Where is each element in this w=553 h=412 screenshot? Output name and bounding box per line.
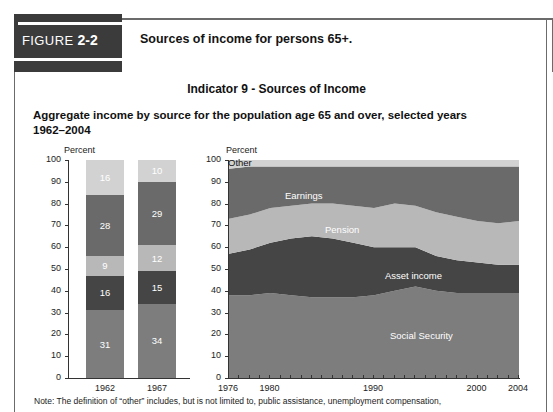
area-band-label: Social Security [390,330,453,341]
area-x-tick [301,375,302,378]
bar-y-tick-label: 20 [41,328,61,338]
area-chart-ylabel: Percent [226,145,257,155]
bar-y-axis-line [68,160,69,378]
chart-subtitle: Aggregate income by source for the popul… [33,108,473,138]
bar-segment: 29 [138,182,176,245]
area-band [229,286,519,378]
area-chart-svg [229,160,521,379]
header-hairline [122,19,553,20]
area-x-tick [456,375,457,378]
area-y-tick [225,182,228,183]
bar-y-tick [65,204,68,205]
area-y-tick-label: 100 [201,154,221,164]
bar-y-tick-label: 70 [41,219,61,229]
area-band-label: Other [228,157,252,168]
area-band-label: Pension [325,224,359,235]
area-x-tick-label: 1976 [210,383,246,393]
area-y-tick-label: 60 [201,241,221,251]
area-y-tick-label: 90 [201,176,221,186]
area-x-axis-line [228,378,520,379]
area-y-tick [225,356,228,357]
bar-y-tick [65,291,68,292]
area-x-tick [435,375,436,378]
area-y-tick-label: 50 [201,263,221,273]
bar-y-tick [65,334,68,335]
area-x-tick-label: 1990 [355,383,391,393]
figure-caption: Sources of income for persons 65+. [140,32,352,46]
bar-segment: 16 [86,160,124,195]
area-y-tick-label: 40 [201,285,221,295]
area-x-tick [249,375,250,378]
area-x-tick [518,375,519,378]
area-x-tick [280,375,281,378]
bar-segment: 15 [138,271,176,304]
bar-y-tick-label: 90 [41,176,61,186]
bar-y-tick-label: 40 [41,285,61,295]
area-x-tick [497,375,498,378]
area-x-tick-label: 2004 [500,383,536,393]
bar-stack: 3415122910 [138,152,176,378]
area-y-tick [225,313,228,314]
figure-page: FIGURE 2-2 Sources of income for persons… [0,0,553,412]
bar-segment: 9 [86,256,124,276]
area-x-tick [363,375,364,378]
area-y-tick-label: 30 [201,307,221,317]
bar-y-tick-label: 100 [41,154,61,164]
area-x-tick [321,375,322,378]
bar-segment: 31 [86,310,124,378]
bar-y-tick [65,356,68,357]
area-x-tick [373,375,374,378]
bar-segment: 28 [86,195,124,256]
area-x-tick [425,375,426,378]
area-x-tick [466,375,467,378]
area-x-tick [269,375,270,378]
area-x-tick [290,375,291,378]
area-x-tick [508,375,509,378]
area-y-tick-label: 10 [201,350,221,360]
figure-rule-top [18,22,298,25]
figure-badge-label: FIGURE [22,33,74,48]
area-y-tick-label: 20 [201,328,221,338]
area-x-tick-label: 2000 [459,383,495,393]
area-y-tick [225,334,228,335]
area-band-label: Earnings [285,190,323,201]
area-x-tick [446,375,447,378]
bar-x-axis-line [68,378,190,379]
area-y-tick [225,291,228,292]
bar-y-tick [65,269,68,270]
bar-x-tick-label: 1967 [132,383,182,393]
bar-y-tick-label: 30 [41,307,61,317]
indicator-title: Indicator 9 - Sources of Income [0,82,553,96]
area-x-tick [383,375,384,378]
area-y-tick [225,269,228,270]
page-frame-left [14,18,15,412]
bar-segment: 12 [138,245,176,271]
figure-note: Note: The definition of “other” includes… [34,396,441,406]
area-y-tick-label: 70 [201,219,221,229]
bar-y-tick-label: 50 [41,263,61,273]
bar-segment: 34 [138,304,176,378]
bar-y-tick-label: 80 [41,198,61,208]
area-x-tick [352,375,353,378]
bar-segment: 16 [86,276,124,311]
area-y-tick-label: 0 [201,372,221,382]
area-x-tick [477,375,478,378]
area-band-label: Asset income [385,270,442,281]
bar-y-tick [65,225,68,226]
bar-y-tick-label: 10 [41,350,61,360]
area-x-tick-label: 1980 [251,383,287,393]
area-y-tick-label: 80 [201,198,221,208]
area-x-tick [487,375,488,378]
bar-segment: 10 [138,160,176,182]
stacked-area-chart: Percent 0102030405060708090100 OtherEarn… [200,152,550,392]
figure-badge-number: 2-2 [78,32,98,48]
bar-y-tick-label: 0 [41,372,61,382]
figure-badge-text: FIGURE 2-2 [22,32,122,48]
bar-x-tick-label: 1962 [80,383,130,393]
area-x-tick [414,375,415,378]
area-y-tick [225,204,228,205]
bar-stack: 311692816 [86,152,124,378]
area-x-tick [394,375,395,378]
area-x-tick [404,375,405,378]
bar-y-tick [65,247,68,248]
